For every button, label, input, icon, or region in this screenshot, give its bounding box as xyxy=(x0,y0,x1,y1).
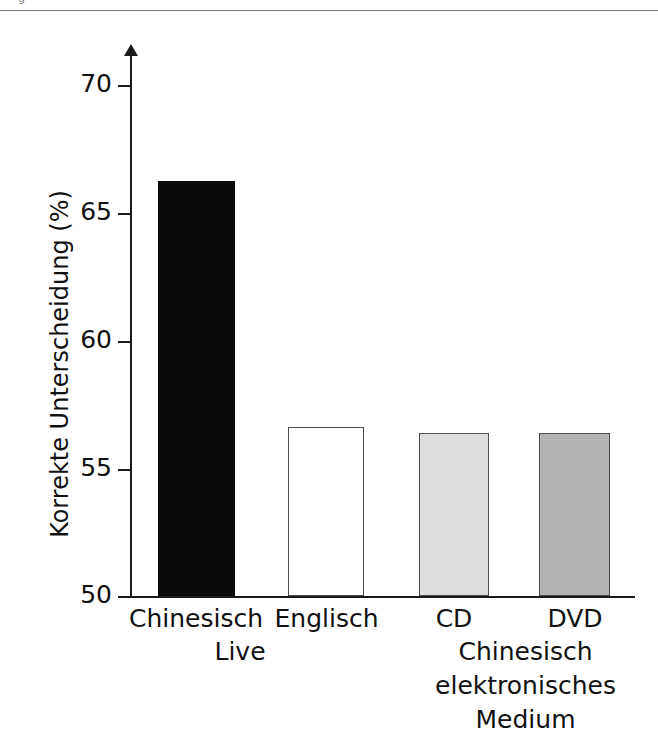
bar-englisch-live[interactable] xyxy=(288,427,364,596)
y-tick-mark xyxy=(118,469,130,471)
y-axis-title: Korrekte Unterscheidung (%) xyxy=(48,154,72,574)
bar-dvd[interactable] xyxy=(539,433,610,596)
x-label-cd: CD xyxy=(414,604,494,634)
group-label-medium-line3: Medium xyxy=(418,703,633,737)
bar-chart-plot: 70 65 60 55 50 Korrekte Unterscheidung (… xyxy=(0,0,658,740)
y-tick-label: 70 xyxy=(54,71,112,96)
y-axis-arrow-icon xyxy=(124,44,138,56)
x-label-chinesisch: Chinesisch xyxy=(116,604,276,634)
group-label-live: Live xyxy=(160,635,320,669)
y-tick-label: 50 xyxy=(54,582,112,607)
x-axis-line xyxy=(130,596,635,598)
group-label-medium-line2: elektronisches xyxy=(418,669,633,703)
y-tick-mark xyxy=(118,213,130,215)
y-axis-line xyxy=(130,52,132,598)
y-tick-mark xyxy=(118,596,130,598)
figure-container: g 70 65 60 55 50 Korrekte Unterscheidung… xyxy=(0,0,658,740)
y-tick-mark xyxy=(118,85,130,87)
bar-chinesisch-live[interactable] xyxy=(158,181,235,596)
y-tick-mark xyxy=(118,341,130,343)
x-label-dvd: DVD xyxy=(530,604,620,634)
bar-cd[interactable] xyxy=(419,433,489,596)
group-label-medium-line1: Chinesisch xyxy=(418,635,633,669)
x-label-englisch: Englisch xyxy=(254,604,399,634)
